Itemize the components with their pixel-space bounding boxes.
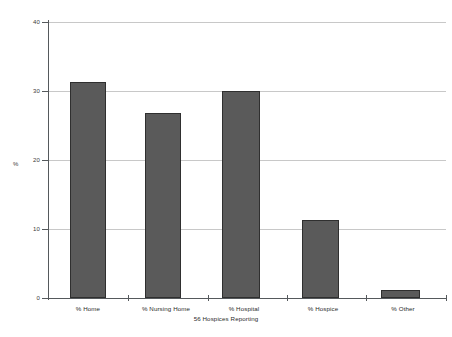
- x-tick-mark-2: [208, 295, 209, 301]
- gridline-40: [48, 22, 446, 23]
- x-label-nursing-home: % Nursing Home: [123, 305, 209, 312]
- y-tick-label-40: 40: [14, 19, 40, 25]
- bar-hospital[interactable]: [222, 91, 260, 298]
- x-tick-mark-5: [446, 295, 447, 301]
- x-label-other: % Other: [361, 305, 445, 312]
- y-tick-label-10: 10: [14, 226, 40, 232]
- bar-other[interactable]: [381, 290, 420, 298]
- x-label-hospice: % Hospice: [281, 305, 365, 312]
- y-tick-mark-20: [42, 160, 49, 161]
- bar-hospice[interactable]: [302, 220, 339, 298]
- y-tick-mark-10: [42, 229, 49, 230]
- x-axis-subtitle: 56 Hospices Reporting: [0, 315, 452, 322]
- y-tick-label-30: 30: [14, 88, 40, 94]
- y-tick-mark-40: [42, 22, 49, 23]
- y-tick-label-0: 0: [14, 295, 40, 301]
- y-tick-mark-0: [42, 298, 49, 299]
- x-tick-mark-1: [128, 295, 129, 301]
- y-tick-mark-30: [42, 91, 49, 92]
- bar-chart-figure: 40 30 20 10 0 % % Home % Nursing Home % …: [0, 0, 452, 337]
- x-tick-mark-4: [366, 295, 367, 301]
- x-axis-line: [48, 298, 447, 299]
- x-label-home: % Home: [48, 305, 128, 312]
- bar-nursing-home[interactable]: [145, 113, 181, 298]
- y-axis-title: %: [13, 161, 18, 167]
- x-tick-mark-3: [287, 295, 288, 301]
- x-label-hospital: % Hospital: [202, 305, 286, 312]
- bar-home[interactable]: [70, 82, 106, 298]
